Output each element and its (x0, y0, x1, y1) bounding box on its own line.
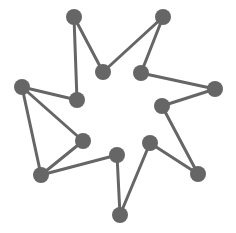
graph-edge (74, 17, 77, 100)
graph-edge (162, 89, 215, 106)
graph-node (95, 64, 111, 80)
graph-node (154, 98, 170, 114)
graph-node (190, 166, 206, 182)
graph-edges (22, 17, 215, 215)
graph-node (207, 81, 223, 97)
graph-node (75, 133, 91, 149)
graph-edge (117, 155, 120, 215)
graph-node (133, 65, 149, 81)
graph-node (33, 167, 49, 183)
graph-node (66, 9, 82, 25)
graph-node (69, 92, 85, 108)
graph-node (14, 79, 30, 95)
graph-edge (103, 17, 163, 72)
network-graph-diagram (0, 0, 236, 233)
graph-node (142, 135, 158, 151)
graph-node (109, 147, 125, 163)
graph-node (155, 9, 171, 25)
graph-edge (74, 17, 103, 72)
graph-edge (141, 73, 215, 89)
graph-node (112, 207, 128, 223)
